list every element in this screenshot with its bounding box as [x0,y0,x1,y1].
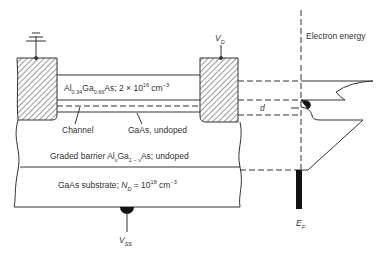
fermi-level-label: EF [296,219,305,228]
substrate-label: GaAs substrate; ND = 1018 cm−3 [58,181,177,190]
drain-voltage-label: VD [215,34,225,43]
ground-icon [26,33,46,60]
gaas-pointer [137,113,142,124]
substrate-terminal [120,207,134,232]
fermi-bar [296,170,302,209]
drain-terminal [220,45,223,60]
gaas-undoped-label: GaAs, undoped [128,126,187,135]
source-contact [17,58,57,120]
band-diagram [291,81,373,170]
projection-lines [238,10,301,175]
graded-barrier-label: Graded barrier AlxGa1 − xAs; undoped [50,152,189,161]
substrate-voltage-label: VSS [119,236,132,245]
channel-pointer [75,107,80,124]
algaas-label: Al0.34Ga0.66As; 2 × 1016 cm−3 [64,84,169,93]
electron-energy-label: Electron energy [306,32,366,41]
channel-label: Channel [62,126,94,135]
d-label: d [260,104,265,113]
drain-contact [200,58,238,122]
